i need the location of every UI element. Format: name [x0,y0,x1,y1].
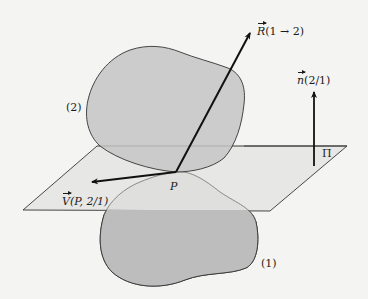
body-2-label: (2) [66,102,82,113]
contact-point-label: P [170,181,177,192]
body-2-shape [87,46,245,172]
body-1-label: (1) [261,258,277,269]
plane-label: Π [322,148,332,159]
velocity-symbol: V [62,196,70,207]
reaction-force-args: (1 → 2) [265,25,304,38]
diagram-canvas [0,0,368,299]
normal-symbol: n [297,75,304,86]
velocity-label: V(P, 2/1) [62,196,108,207]
normal-args: (2/1) [304,74,330,87]
normal-label: n(2/1) [297,75,330,86]
reaction-force-label: R(1 → 2) [257,26,304,37]
contact-diagram: R(1 → 2) n(2/1) (2) Π P V(P, 2/1) (1) [0,0,368,299]
velocity-args: (P, 2/1) [70,195,108,208]
reaction-force-symbol: R [257,26,265,37]
